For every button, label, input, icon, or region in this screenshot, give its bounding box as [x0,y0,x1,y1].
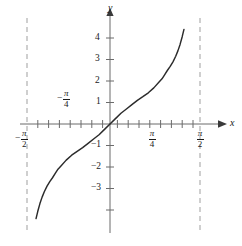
x-axis-label: x [230,118,234,128]
numerator: π [63,89,70,98]
y-tick-label-neg1: −1 [91,140,101,150]
y-tick-label-3: 3 [95,54,100,64]
y-tick-label-neg3: −3 [91,183,101,193]
x-axis-arrowhead [218,120,227,128]
denominator: 4 [149,140,156,149]
minus-sign: − [57,94,62,104]
x-tick-label-neg-pi-over-2: − π 2 [15,129,28,149]
plot-canvas [0,0,242,246]
denominator: 2 [21,140,28,149]
denominator: 2 [197,140,204,149]
y-tick-label-4: 4 [95,33,100,43]
y-tick-label-1: 1 [96,97,101,107]
x-tick-label-pi-over-4: π 4 [148,129,156,149]
numerator: π [21,129,28,138]
numerator: π [197,129,204,138]
y-axis-label: y [108,3,112,13]
x-tick-label-pi-over-2: π 2 [196,129,204,149]
numerator: π [149,129,156,138]
minus-sign: − [15,134,20,144]
tangent-function-graph: y x 4 3 2 1 −1 −2 −3 − π 2 − π 4 π 4 [0,0,242,246]
y-tick-label-neg2: −2 [91,162,101,172]
denominator: 4 [63,100,70,109]
y-tick-label-2: 2 [95,76,100,86]
x-tick-label-neg-pi-over-4: − π 4 [57,89,70,109]
